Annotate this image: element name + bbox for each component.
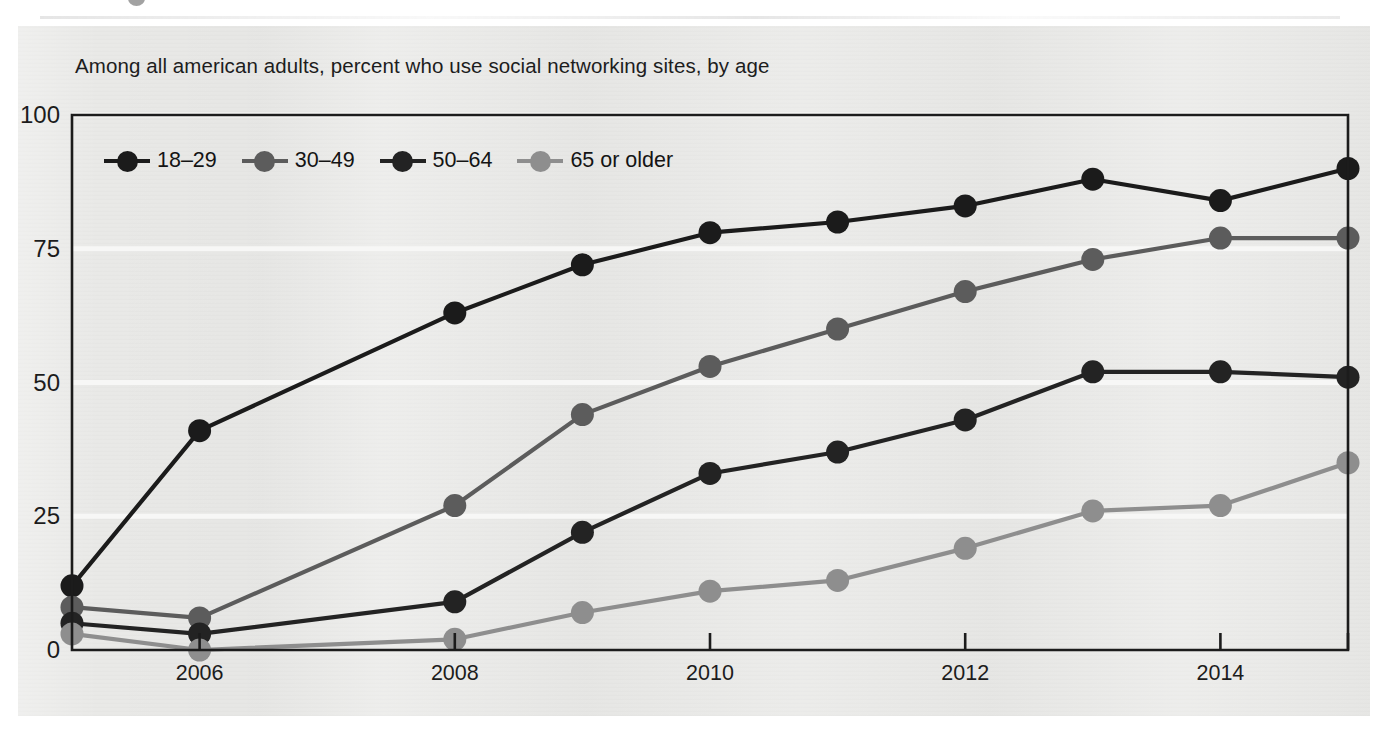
legend-marker-icon (380, 150, 426, 172)
series-marker (954, 194, 977, 217)
series-marker (826, 318, 849, 341)
series-marker (826, 211, 849, 234)
legend-item: 50–64 (380, 150, 493, 172)
series-marker (954, 280, 977, 303)
x-axis-tick-label: 2006 (140, 663, 260, 685)
legend-label: 18–29 (157, 150, 217, 172)
series-marker (699, 355, 722, 378)
series-marker (826, 441, 849, 464)
y-axis-tick-label: 50 (4, 371, 60, 395)
series-marker (571, 403, 594, 426)
legend-label: 65 or older (570, 150, 673, 172)
series-marker (188, 419, 211, 442)
y-axis-tick-label: 0 (4, 638, 60, 662)
legend-item: 18–29 (104, 150, 217, 172)
x-axis-tick-label: 2012 (905, 663, 1025, 685)
series-marker (699, 221, 722, 244)
series-marker (826, 569, 849, 592)
series-layer (61, 157, 1360, 662)
series-marker (954, 537, 977, 560)
y-axis-tick-label: 75 (4, 237, 60, 261)
series-marker (954, 408, 977, 431)
series-marker (571, 521, 594, 544)
legend-marker-icon (517, 150, 563, 172)
x-axis-tick-label: 2014 (1160, 663, 1280, 685)
series-marker (571, 601, 594, 624)
series-marker (443, 494, 466, 517)
series-line-3 (72, 463, 1348, 650)
series-marker (1209, 189, 1232, 212)
legend-item: 30–49 (242, 150, 355, 172)
legend-label: 50–64 (433, 150, 493, 172)
y-axis-tick-label: 100 (4, 103, 60, 127)
legend-marker-icon (104, 150, 150, 172)
series-marker (443, 301, 466, 324)
series-marker (443, 590, 466, 613)
series-marker (1209, 494, 1232, 517)
series-marker (1209, 227, 1232, 250)
gridlines (72, 115, 1348, 516)
y-axis-tick-label: 25 (4, 504, 60, 528)
legend-label: 30–49 (295, 150, 355, 172)
x-axis-tick-label: 2008 (395, 663, 515, 685)
series-marker (699, 462, 722, 485)
series-marker (1081, 168, 1104, 191)
series-marker (1081, 499, 1104, 522)
legend-marker-icon (242, 150, 288, 172)
line-chart-plot (0, 0, 1379, 745)
series-line-1 (72, 238, 1348, 618)
series-marker (1209, 360, 1232, 383)
chart-legend: 18–2930–4950–6465 or older (104, 150, 698, 172)
x-axis-tick-label: 2010 (650, 663, 770, 685)
series-marker (699, 580, 722, 603)
series-marker (571, 253, 594, 276)
series-marker (1081, 360, 1104, 383)
legend-item: 65 or older (517, 150, 673, 172)
series-marker (1081, 248, 1104, 271)
